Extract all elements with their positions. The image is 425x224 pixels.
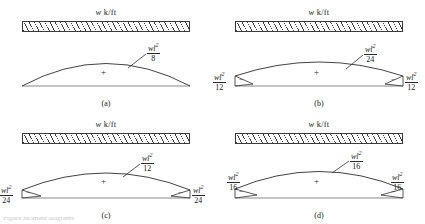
beam-hatched-c <box>22 133 190 144</box>
left-end-moment-label-c: wl2 24 <box>0 184 13 205</box>
right-end-moment-label-d: wl2 16 <box>391 171 404 192</box>
panel-a: w k/ft + wl2 8 (a) <box>0 0 212 112</box>
right-end-denominator-d: 16 <box>391 183 404 192</box>
load-label-c: w k/ft <box>0 119 212 129</box>
center-moment-denominator-c: 12 <box>141 164 154 173</box>
center-moment-label-b: wl2 24 <box>364 43 377 64</box>
left-negative-triangle-c <box>22 190 41 198</box>
right-end-denominator-c: 24 <box>192 196 205 205</box>
center-moment-denominator-d: 16 <box>350 162 363 171</box>
left-negative-triangle-b <box>235 76 253 86</box>
load-units-b: k/ft <box>314 7 329 17</box>
load-label-a: w k/ft <box>0 7 212 17</box>
moment-curve-svg-a <box>0 38 212 96</box>
center-moment-numerator-d: wl2 <box>350 150 363 162</box>
load-label-d: w k/ft <box>213 119 425 129</box>
center-moment-label-a: wl2 8 <box>147 42 160 63</box>
center-moment-numerator-c: wl2 <box>141 152 154 164</box>
right-end-numerator-d: wl2 <box>391 171 404 183</box>
center-moment-denominator-b: 24 <box>364 55 377 64</box>
load-units-d: k/ft <box>314 119 329 129</box>
beam-hatched-b <box>235 21 403 32</box>
figure-sheet: w k/ft + wl2 8 (a) w k/ft <box>0 0 425 224</box>
panel-b: w k/ft + − − wl2 24 wl2 12 wl2 <box>213 0 425 112</box>
moment-diagram-c: + − − wl2 12 wl2 24 wl2 24 <box>0 150 212 208</box>
center-moment-denominator-a: 8 <box>147 54 160 63</box>
beam-hatched-a <box>22 21 190 32</box>
moment-diagram-d: + − − wl2 16 wl2 16 wl2 16 <box>213 150 425 208</box>
load-label-b: w k/ft <box>213 7 425 17</box>
positive-sign-a: + <box>101 68 106 77</box>
panel-caption-b: (b) <box>213 99 425 108</box>
right-end-moment-label-b: wl2 12 <box>405 71 418 92</box>
left-negative-sign-d: − <box>239 188 244 196</box>
right-negative-sign-b: − <box>391 76 396 84</box>
leader-line-center-a <box>128 54 146 68</box>
left-negative-sign-c: − <box>26 189 31 197</box>
moment-diagram-b: + − − wl2 24 wl2 12 wl2 12 <box>213 38 425 96</box>
left-end-numerator-b: wl2 <box>213 71 226 83</box>
footer-cropped-caption: Figure Moment diagrams <box>0 217 425 224</box>
center-moment-label-c: wl2 12 <box>141 152 154 173</box>
left-negative-sign-b: − <box>239 76 244 84</box>
center-moment-label-d: wl2 16 <box>350 150 363 171</box>
panel-d: w k/ft + − − wl2 16 wl2 16 wl2 <box>213 112 425 224</box>
right-negative-sign-c: − <box>178 189 183 197</box>
center-moment-numerator-b: wl2 <box>364 43 377 55</box>
right-end-numerator-c: wl2 <box>192 184 205 196</box>
left-end-numerator-c: wl2 <box>0 184 13 196</box>
left-end-moment-label-d: wl2 16 <box>227 171 240 192</box>
right-end-numerator-b: wl2 <box>405 71 418 83</box>
left-end-denominator-b: 12 <box>213 83 226 92</box>
load-units-a: k/ft <box>101 7 116 17</box>
left-end-moment-label-b: wl2 12 <box>213 71 226 92</box>
center-moment-numerator-a: wl2 <box>147 42 160 54</box>
beam-hatched-d <box>235 133 403 144</box>
panel-c: w k/ft + − − wl2 12 wl2 24 wl2 <box>0 112 212 224</box>
leader-line-center-d <box>332 161 349 173</box>
left-end-denominator-d: 16 <box>227 183 240 192</box>
load-units-c: k/ft <box>101 119 116 129</box>
left-end-denominator-c: 24 <box>0 196 13 205</box>
moment-diagram-a: + wl2 8 <box>0 38 212 96</box>
panel-caption-a: (a) <box>0 99 212 108</box>
moment-curve-svg-b <box>213 38 425 96</box>
right-end-moment-label-c: wl2 24 <box>192 184 205 205</box>
positive-sign-b: + <box>314 68 319 77</box>
left-end-numerator-d: wl2 <box>227 171 240 183</box>
footer-caption-text: Figure Moment diagrams <box>3 217 74 222</box>
right-end-denominator-b: 12 <box>405 83 418 92</box>
positive-sign-c: + <box>101 177 106 186</box>
leader-line-center-b <box>346 55 363 69</box>
positive-sign-d: + <box>314 177 319 186</box>
